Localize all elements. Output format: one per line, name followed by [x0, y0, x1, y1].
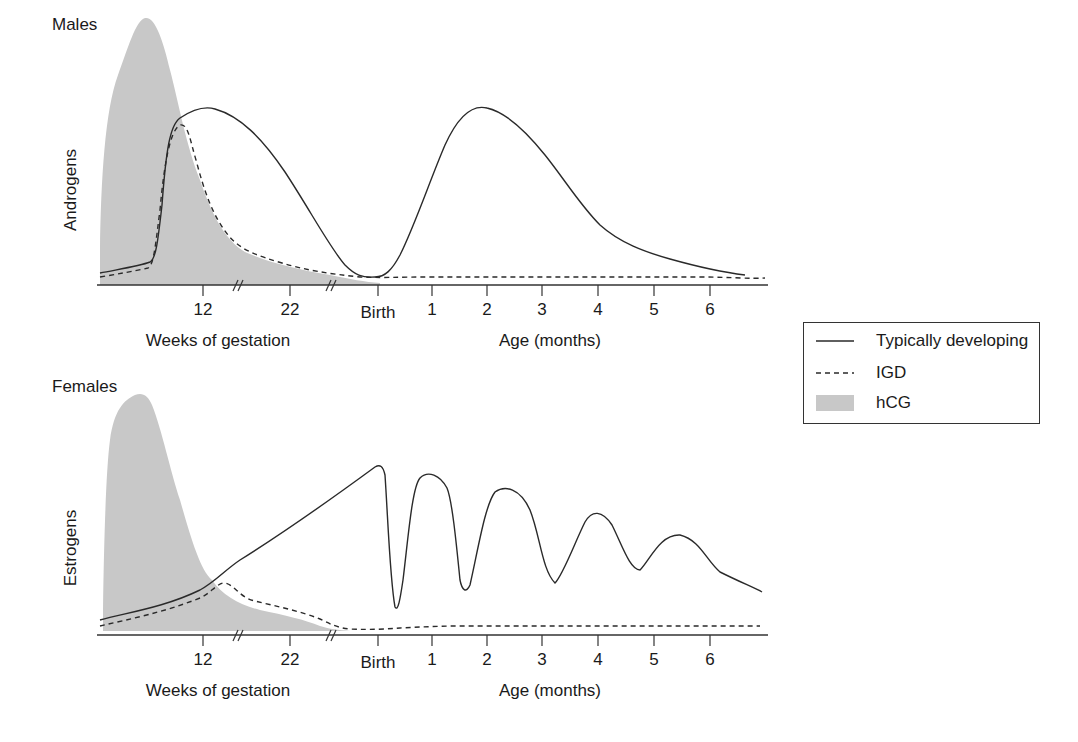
- females-tick-2: 2: [482, 650, 491, 669]
- males-panel: 12 22 Birth 1 2 3 4 5 6 Weeks of gestati…: [52, 15, 768, 350]
- males-panel-title: Males: [52, 15, 97, 34]
- females-tick-3: 3: [537, 650, 546, 669]
- males-tick-12: 12: [194, 300, 213, 319]
- females-tick-12: 12: [194, 650, 213, 669]
- females-x-ticks: [203, 635, 710, 646]
- males-tick-2: 2: [482, 300, 491, 319]
- females-panel-title: Females: [52, 377, 117, 396]
- solid-line-icon: [816, 336, 854, 346]
- legend: Typically developing IGD hCG: [803, 322, 1040, 424]
- legend-label-hcg: hCG: [876, 393, 911, 413]
- males-tick-6: 6: [705, 300, 714, 319]
- females-tick-4: 4: [593, 650, 602, 669]
- males-tick-5: 5: [649, 300, 658, 319]
- legend-label-typical: Typically developing: [876, 331, 1028, 351]
- females-panel: 12 22 Birth 1 2 3 4 5 6 Weeks of gestati…: [52, 377, 768, 700]
- males-tick-3: 3: [537, 300, 546, 319]
- females-ylabel: Estrogens: [61, 510, 80, 587]
- legend-item-igd: IGD: [816, 361, 906, 385]
- females-tick-5: 5: [649, 650, 658, 669]
- males-tick-4: 4: [593, 300, 602, 319]
- females-tick-6: 6: [705, 650, 714, 669]
- males-hcg-area: [100, 18, 380, 285]
- females-hcg-area: [103, 394, 350, 631]
- legend-label-igd: IGD: [876, 363, 906, 383]
- males-tick-22: 22: [281, 300, 300, 319]
- males-xlabel-age: Age (months): [499, 331, 601, 350]
- males-ylabel: Androgens: [61, 149, 80, 231]
- females-xlabel-age: Age (months): [499, 681, 601, 700]
- dashed-line-icon: [816, 368, 854, 378]
- females-tick-22: 22: [281, 650, 300, 669]
- females-tick-birth: Birth: [361, 653, 396, 672]
- gray-fill-swatch-icon: [816, 395, 854, 411]
- males-xlabel-gestation: Weeks of gestation: [146, 331, 290, 350]
- males-tick-1: 1: [427, 300, 436, 319]
- legend-item-typical: Typically developing: [816, 329, 1028, 353]
- females-tick-1: 1: [427, 650, 436, 669]
- males-tick-birth: Birth: [361, 303, 396, 322]
- females-xlabel-gestation: Weeks of gestation: [146, 681, 290, 700]
- legend-item-hcg: hCG: [816, 391, 911, 415]
- males-x-ticks: [203, 285, 710, 296]
